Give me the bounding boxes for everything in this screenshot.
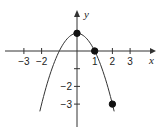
y-axis-label: y — [83, 8, 89, 20]
point-marker — [92, 48, 98, 54]
graph: −3−2123−2−3 x y — [0, 0, 161, 132]
x-axis-label: x — [148, 54, 154, 66]
tick-labels: −3−2123−2−3 — [18, 56, 133, 110]
y-tick-label: −2 — [61, 81, 73, 92]
data-points — [74, 30, 116, 107]
x-tick-label: −2 — [36, 56, 48, 67]
x-tick-label: 2 — [110, 56, 116, 67]
y-axis-arrow-icon — [74, 10, 80, 17]
y-tick-label: −3 — [61, 99, 73, 110]
point-marker — [74, 30, 80, 36]
x-tick-label: 1 — [92, 56, 98, 67]
x-tick-label: 3 — [127, 56, 133, 67]
x-tick-label: −3 — [18, 56, 30, 67]
point-marker — [109, 101, 115, 107]
